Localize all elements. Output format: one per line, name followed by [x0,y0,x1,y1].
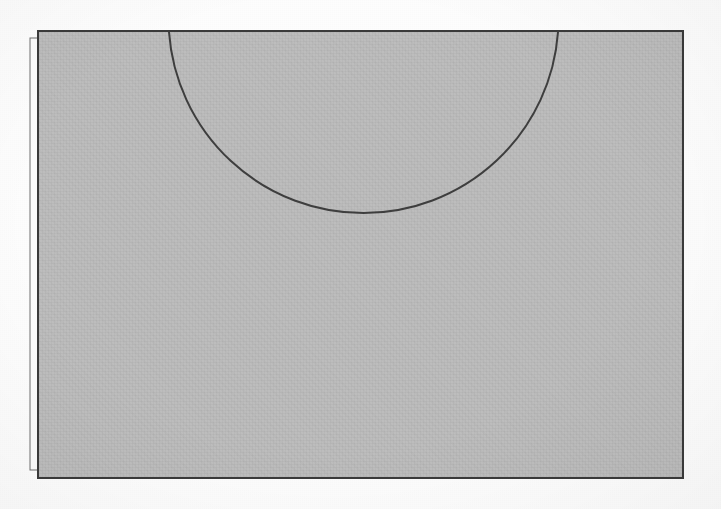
scanned-page [0,0,721,509]
figure-canvas [0,0,721,509]
main-sheet-rectangle [38,31,683,478]
figure-drawing [0,0,721,509]
